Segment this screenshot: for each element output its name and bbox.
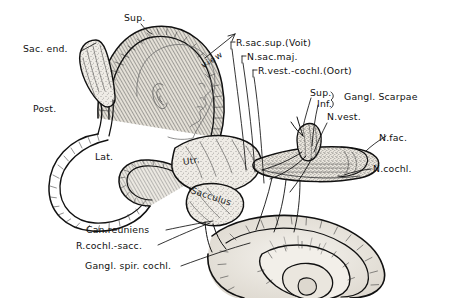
label-lateral-canal: Lat.	[95, 152, 113, 161]
label-scarpas-ganglion: Gangl. Scarpae	[344, 92, 418, 101]
label-vestibular-nerve: N.vest.	[327, 112, 361, 121]
label-endolymphatic-sac: Sac. end.	[23, 44, 68, 53]
label-spiral-ganglion: Gangl. spir. cochl.	[85, 261, 171, 270]
label-posterior-canal: Post.	[33, 104, 56, 113]
label-major-saccular-nerve: N.sac.maj.	[247, 52, 298, 61]
label-oort-anastomosis: R.vest.-cochl.(Oort)	[258, 66, 352, 75]
label-facial-nerve: N.fac.	[379, 133, 407, 142]
label-superior-canal: Sup.	[124, 13, 145, 22]
label-voit-nerve: R.sac.sup.(Voit)	[236, 38, 311, 47]
labyrinth-illustration	[0, 0, 458, 298]
label-cochlear-nerve: N.cochl.	[373, 164, 412, 173]
label-cochleosaccular-duct: R.cochl.-sacc.	[76, 241, 142, 250]
label-superior-division: Sup.	[310, 88, 331, 97]
label-inferior-division: Inf.	[317, 99, 332, 108]
anatomical-figure: Sup. Sac. end. Post. Lat. view R.sac.sup…	[0, 0, 458, 298]
label-ductus-reuniens: Can.reuniens	[86, 225, 149, 234]
